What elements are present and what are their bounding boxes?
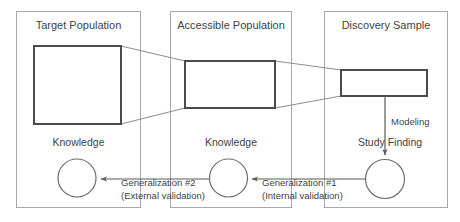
- circle-accessible-knowledge: [210, 159, 248, 197]
- node-label-study-finding: Study Finding: [358, 136, 422, 148]
- edge-label-modeling: Modeling: [391, 116, 430, 127]
- diagram-root: Target Population Accessible Population …: [0, 0, 460, 222]
- panel-title-target-population: Target Population: [36, 19, 122, 31]
- node-label-target-knowledge: Knowledge: [53, 136, 105, 148]
- entity-rect-discovery-sample: [341, 70, 427, 96]
- edge-label-generalization-1-line2: (Internal validation): [262, 190, 343, 201]
- panel-title-accessible-population: Accessible Population: [177, 19, 285, 31]
- entity-rect-accessible-population: [185, 61, 275, 108]
- funnel-line-target-to-accessible-bottom: [121, 108, 185, 124]
- funnel-line-accessible-to-discovery-top: [275, 61, 341, 70]
- node-label-accessible-knowledge: Knowledge: [205, 136, 257, 148]
- panel-title-discovery-sample: Discovery Sample: [342, 19, 431, 31]
- edge-label-generalization-2-line2: (External validation): [121, 190, 205, 201]
- diagram-canvas: Target Population Accessible Population …: [0, 0, 460, 222]
- edge-label-generalization-1-line1: Generalization #1: [262, 177, 336, 188]
- circle-study-finding: [366, 160, 405, 199]
- entity-rect-target-population: [34, 46, 121, 124]
- edge-label-generalization-2-line1: Generalization #2: [121, 177, 195, 188]
- circle-target-knowledge: [58, 159, 96, 197]
- funnel-line-target-to-accessible-top: [121, 46, 185, 61]
- funnel-line-accessible-to-discovery-bottom: [275, 96, 341, 108]
